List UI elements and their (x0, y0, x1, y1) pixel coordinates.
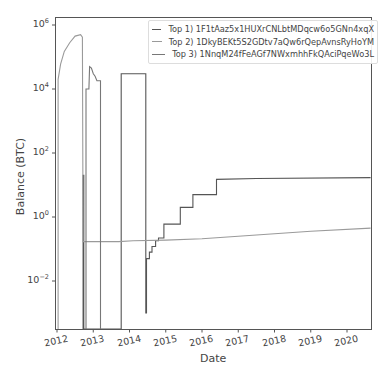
series-line-top2 (58, 35, 371, 329)
legend-label: Top 3) 1NnqM24fFeAGf7NWxmhhFkQAciPqeWo3L (172, 48, 374, 61)
y-tick-label: 106 (21, 17, 49, 29)
tick-marks (52, 25, 347, 333)
legend-item-top3: Top 3) 1NnqM24fFeAGf7NWxmhhFkQAciPqeWo3L (152, 48, 374, 61)
series-line-top3 (86, 67, 101, 329)
legend-swatch-icon (152, 41, 162, 42)
series-layer (58, 35, 371, 329)
y-tick-label: 104 (21, 81, 49, 93)
legend-swatch-icon (152, 54, 165, 55)
legend-swatch-icon (152, 29, 161, 30)
legend-label: Top 1) 1F1tAaz5x1HUXrCNLbtMDqcw6o5GNn4xq… (168, 23, 374, 36)
plot-frame (56, 18, 372, 330)
legend-item-top2: Top 2) 1DkyBEKt5S2GDtv7aQw6rQepAvnsRyHoY… (152, 36, 374, 49)
legend: Top 1) 1F1tAaz5x1HUXrCNLbtMDqcw6o5GNn4xq… (148, 20, 378, 64)
series-line-top1 (83, 74, 371, 329)
y-tick-label: 10−2 (21, 273, 49, 285)
legend-item-top1: Top 1) 1F1tAaz5x1HUXrCNLbtMDqcw6o5GNn4xq… (152, 23, 374, 36)
y-axis-label: Balance (BTC) (14, 138, 27, 215)
x-axis-label: Date (200, 352, 226, 365)
legend-label: Top 2) 1DkyBEKt5S2GDtv7aQw6rQepAvnsRyHoY… (169, 36, 374, 49)
